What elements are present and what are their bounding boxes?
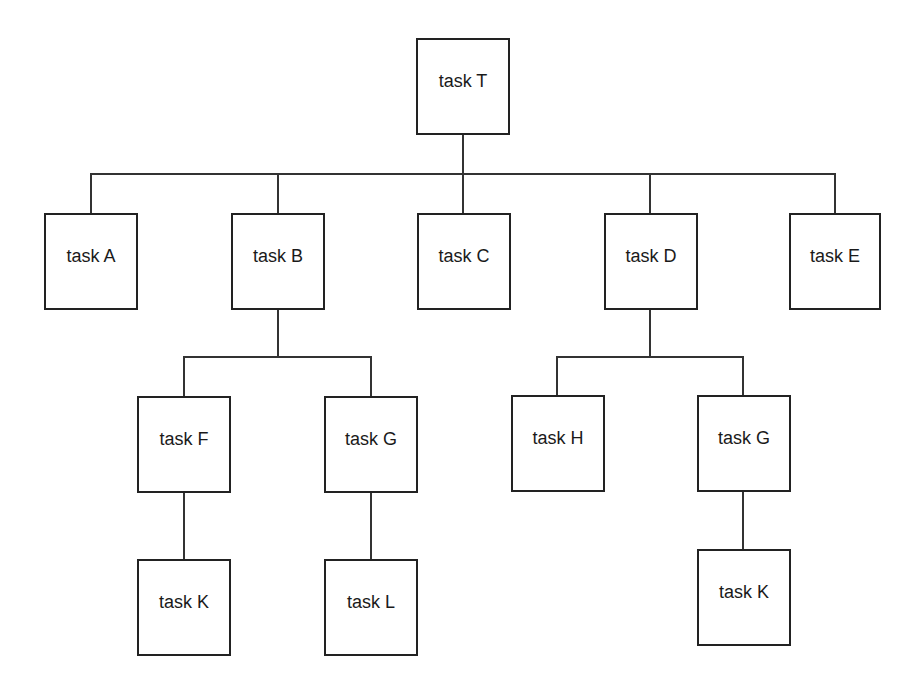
connector-g-to-l	[370, 493, 372, 559]
connector-to-b	[277, 173, 279, 213]
node-task-b: task B	[231, 213, 325, 310]
node-task-l: task L	[324, 559, 418, 656]
node-task-g: task G	[324, 396, 418, 493]
node-label: task K	[699, 581, 789, 602]
connector-f-to-k	[183, 493, 185, 559]
node-task-k-2: task K	[697, 549, 791, 646]
node-task-f: task F	[137, 396, 231, 493]
node-label: task C	[419, 245, 509, 266]
node-task-h: task H	[511, 395, 605, 492]
node-label: task D	[606, 245, 696, 266]
node-label: task F	[139, 428, 229, 449]
node-label: task H	[513, 427, 603, 448]
node-task-k: task K	[137, 559, 231, 656]
connector-to-d	[649, 173, 651, 213]
node-label: task L	[326, 591, 416, 612]
node-label: task B	[233, 245, 323, 266]
task-hierarchy-diagram: task T task A task B task C task D task …	[0, 0, 911, 693]
node-label: task A	[46, 245, 136, 266]
node-label: task G	[326, 428, 416, 449]
node-label: task T	[418, 70, 508, 91]
node-task-g-2: task G	[697, 395, 791, 492]
connector-to-f	[183, 356, 185, 396]
connector-b-bar	[183, 356, 371, 358]
connector-to-g	[370, 356, 372, 396]
node-task-c: task C	[417, 213, 511, 310]
node-task-d: task D	[604, 213, 698, 310]
connector-to-h	[556, 356, 558, 395]
connector-d-bar	[556, 356, 743, 358]
connector-level1-bar	[90, 173, 835, 175]
node-label: task E	[791, 245, 879, 266]
node-label: task G	[699, 427, 789, 448]
connector-g2-to-k2	[742, 492, 744, 549]
connector-to-e	[834, 173, 836, 213]
connector-d-down	[649, 310, 651, 356]
node-label: task K	[139, 591, 229, 612]
connector-b-down	[277, 310, 279, 357]
connector-to-g2	[742, 356, 744, 395]
node-task-e: task E	[789, 213, 881, 310]
node-task-t: task T	[416, 38, 510, 135]
node-task-a: task A	[44, 213, 138, 310]
connector-to-a	[90, 173, 92, 213]
